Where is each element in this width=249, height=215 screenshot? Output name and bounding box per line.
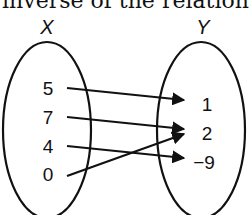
range-label: Y: [196, 16, 211, 38]
arrow-0-to-2: [67, 134, 184, 176]
domain-value: 0: [43, 164, 54, 185]
arrow-5-to-1: [67, 88, 184, 100]
arrow-7-to-2: [67, 117, 184, 129]
domain-value: 5: [43, 78, 54, 99]
arrow-4-to-neg9: [67, 146, 184, 158]
domain-ellipse: [3, 42, 91, 215]
range-value: −9: [193, 152, 215, 173]
domain-label: X: [39, 16, 54, 38]
mapping-diagram: X Y 5 7 4 0 1 2 −9: [0, 0, 249, 215]
range-value: 1: [202, 94, 213, 115]
domain-value: 4: [43, 136, 54, 157]
range-value: 2: [202, 123, 213, 144]
domain-value: 7: [43, 107, 54, 128]
